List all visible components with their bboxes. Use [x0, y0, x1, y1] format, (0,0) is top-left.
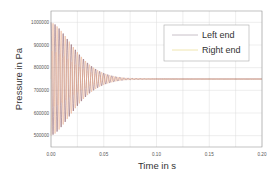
legend-label-right-end: Right end	[202, 45, 241, 55]
y-tick-label: 1000000	[31, 20, 49, 25]
y-axis-title: Pressure in Pa	[13, 47, 24, 110]
x-axis-title: Time in s	[138, 160, 176, 171]
legend: Left end Right end	[164, 25, 249, 61]
x-tick-label: 0.20	[258, 152, 267, 157]
x-tick-label: 0.00	[47, 152, 56, 157]
y-tick-label: 900000	[34, 43, 50, 48]
y-tick-label: 700000	[34, 88, 50, 93]
y-tick-label: 500000	[34, 133, 50, 138]
legend-label-left-end: Left end	[202, 30, 235, 40]
pressure-chart: 5000006000007000008000009000001000000 0.…	[0, 0, 280, 181]
x-tick-label: 0.10	[152, 152, 161, 157]
x-tick-label: 0.05	[99, 152, 108, 157]
x-tick-label: 0.15	[205, 152, 214, 157]
y-tick-label: 600000	[34, 111, 50, 116]
y-tick-label: 800000	[34, 65, 50, 70]
